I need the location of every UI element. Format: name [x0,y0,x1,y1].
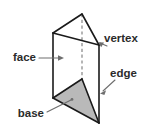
triangular-prism-diagram: face vertex edge base [0,0,147,132]
base-leader-dot-icon [71,98,74,101]
vertex-label: vertex [104,32,138,44]
top-face-edge-left-back [53,14,82,33]
base-label: base [18,107,44,119]
prism-illustration: face vertex edge base [0,0,147,132]
edge-label: edge [110,67,137,79]
face-arrow-head-icon [58,55,64,61]
face-label: face [13,51,36,63]
top-face-edge-back-right [82,14,99,45]
top-face-edge-left-right [53,33,99,45]
edge-leader-line [103,80,115,91]
